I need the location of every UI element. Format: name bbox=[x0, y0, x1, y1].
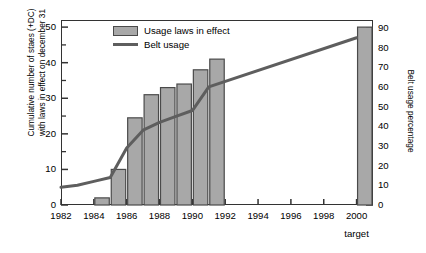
bar bbox=[358, 27, 372, 205]
chart-container: Cumulative number of staes (+DC) with la… bbox=[0, 0, 426, 253]
chart-graphics bbox=[0, 0, 426, 253]
bar bbox=[95, 198, 109, 205]
belt-usage-line bbox=[61, 38, 357, 188]
bar bbox=[177, 84, 191, 205]
bar bbox=[161, 88, 175, 205]
bar bbox=[144, 95, 158, 205]
bar bbox=[128, 118, 142, 205]
